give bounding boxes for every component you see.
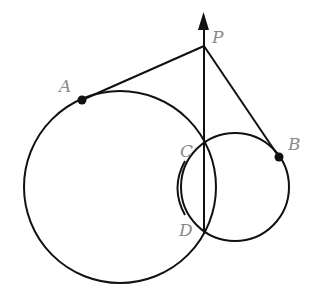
label-b: B xyxy=(287,134,301,154)
tangent-segment-pa xyxy=(82,46,204,100)
label-c: C xyxy=(180,141,193,161)
label-d: D xyxy=(178,220,193,240)
label-a: A xyxy=(57,76,71,96)
arrow-up-icon xyxy=(198,12,209,30)
point-b-dot xyxy=(275,153,284,162)
big-circle xyxy=(24,91,216,283)
label-p: P xyxy=(211,27,224,47)
geometry-diagram: P A B C D xyxy=(0,0,315,289)
point-a-dot xyxy=(78,96,87,105)
tangent-segment-pb xyxy=(204,46,279,157)
